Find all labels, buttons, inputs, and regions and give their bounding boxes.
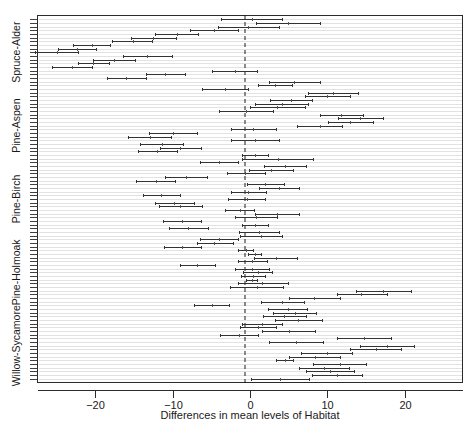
y-group-label: Pine-Birch	[10, 175, 22, 224]
y-group-label: Pine-Holmoak	[10, 239, 22, 306]
y-axis-group-labels: Spruce-AlderPine-AspenPine-BirchPine-Hol…	[10, 21, 22, 386]
x-tick-label: 20	[399, 399, 411, 411]
tukey-hsd-plot: −20−1001020 Spruce-AlderPine-AspenPine-B…	[0, 0, 467, 430]
y-group-label: Spruce-Alder	[10, 21, 22, 83]
chart-background	[0, 0, 467, 430]
y-group-label: Pine-Aspen	[10, 98, 22, 152]
x-axis-title: Differences in mean levels of Habitat	[161, 409, 340, 421]
chart-canvas: −20−1001020 Spruce-AlderPine-AspenPine-B…	[0, 0, 467, 430]
y-group-label: Willow-Sycamore	[10, 305, 22, 386]
x-tick-label: −20	[86, 399, 105, 411]
